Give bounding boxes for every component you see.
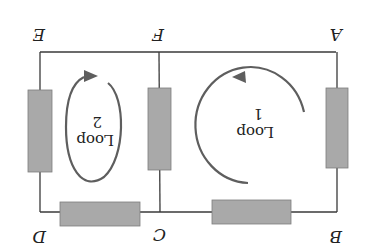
circuit-svg: B C D A F E Loop 1 Loop 2 [0, 0, 366, 247]
loop-1: Loop 1 [195, 67, 304, 183]
node-label-B: B [330, 227, 344, 247]
loop-1-label: Loop [236, 123, 274, 141]
resistor-DE [28, 90, 52, 172]
node-label-F: F [151, 25, 165, 45]
loop-1-arrowhead-icon [232, 71, 246, 83]
circuit-diagram: B C D A F E Loop 1 Loop 2 [0, 0, 366, 247]
node-label-C: C [153, 225, 166, 245]
resistor-CF [148, 88, 171, 170]
node-label-D: D [32, 227, 47, 247]
node-label-A: A [330, 25, 344, 45]
node-label-E: E [32, 25, 46, 45]
resistor-AB [326, 88, 348, 168]
loop-1-number: 1 [253, 105, 263, 123]
resistor-BC [212, 200, 291, 224]
resistor-CD [60, 202, 140, 226]
loop-2-label: Loop [76, 131, 114, 149]
loop-2: Loop 2 [66, 70, 121, 181]
loop-2-arrowhead-icon [84, 70, 98, 82]
loop-2-number: 2 [92, 113, 102, 131]
